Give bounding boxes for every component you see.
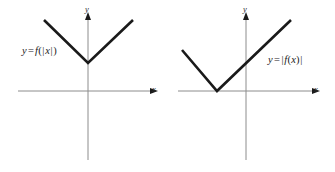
plot-right-svg (168, 0, 335, 172)
equation-left-close-paren: ) (53, 45, 57, 56)
y-axis-right (243, 12, 249, 160)
plot-panel-left: x y y=f(|x|) (0, 0, 167, 172)
x-axis-label-right: x (314, 84, 318, 94)
absolute-value-transformation-figure: x y y=f(|x|) x y y=|f(x)| (0, 0, 335, 172)
plot-left-svg (0, 0, 167, 172)
x-axis-right (178, 88, 320, 94)
plot-panel-right: x y (168, 0, 335, 172)
equation-right-close-bar: | (300, 54, 303, 65)
y-axis-label-right: y (243, 4, 247, 14)
equation-right-equals: = (273, 54, 281, 65)
equation-label-left: y=f(|x|) (22, 45, 57, 56)
y-axis-label-left: y (85, 4, 89, 14)
y-axis-left (85, 12, 91, 160)
x-axis-label-left: x (152, 84, 156, 94)
equation-label-right: y=|f(x)| (268, 54, 303, 65)
equation-left-equals: = (27, 45, 35, 56)
